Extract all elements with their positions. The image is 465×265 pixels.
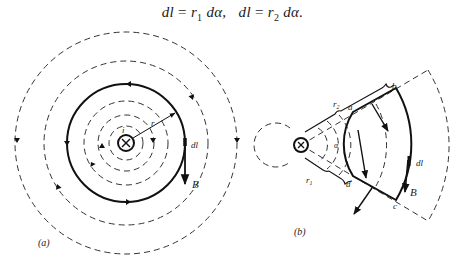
caption-a: (a) xyxy=(38,237,50,249)
inner-dashed-arc-2 xyxy=(318,128,327,162)
label-radius: r xyxy=(151,118,155,128)
inner-dashed-arc-4 xyxy=(339,115,351,175)
wire-into-page-icon-b xyxy=(294,138,308,152)
caption-b: (b) xyxy=(294,226,306,238)
label-a: a xyxy=(348,102,353,112)
wire-into-page-icon xyxy=(118,135,134,151)
label-b: B xyxy=(192,178,199,190)
b-arrow-cd xyxy=(354,188,372,214)
label-b-field: B xyxy=(410,186,417,198)
label-r1: r1 xyxy=(306,175,313,186)
label-current: i xyxy=(122,125,125,135)
label-b-point: b xyxy=(392,81,397,91)
middle-dashed-arc xyxy=(376,104,387,186)
outer-dashed-arc xyxy=(428,70,449,221)
label-r2: r2 xyxy=(333,99,340,110)
b-arrow-da xyxy=(358,130,366,178)
b-arrow-ab xyxy=(372,104,388,131)
label-dl: dl xyxy=(191,140,199,150)
radial-line-top xyxy=(301,70,428,145)
label-d: d xyxy=(346,179,351,189)
label-dl-b: dl xyxy=(416,158,424,168)
diagram-canvas: i r dl B (a) r2 xyxy=(0,0,465,265)
figure-b: r2 r1 α a b c d dl B (b) xyxy=(254,70,449,238)
figure-a: i r dl B (a) xyxy=(14,32,240,254)
inner-dashed-arc-1 xyxy=(254,123,290,167)
label-c: c xyxy=(393,201,397,211)
